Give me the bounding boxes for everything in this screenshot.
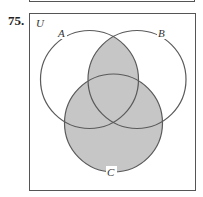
- set-label-c: C: [107, 166, 115, 178]
- venn-diagram: U A B C: [0, 0, 203, 197]
- universe-label: U: [36, 17, 45, 29]
- set-label-b: B: [158, 27, 165, 39]
- set-label-a: A: [57, 27, 65, 39]
